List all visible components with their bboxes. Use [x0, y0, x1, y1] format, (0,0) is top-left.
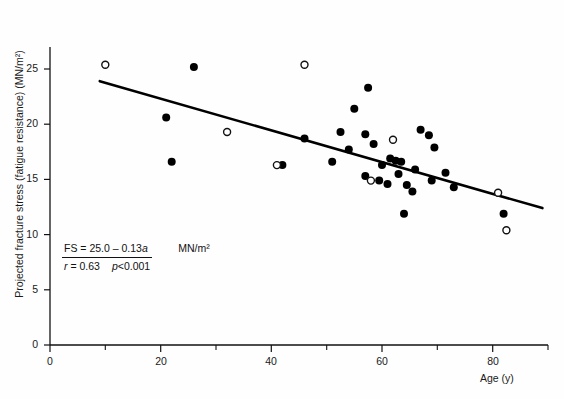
- data-point-open: [367, 177, 374, 184]
- data-point: [350, 105, 358, 113]
- plot-canvas: [0, 0, 564, 399]
- data-point: [301, 135, 309, 143]
- regression-stats-row: r = 0.63 p<0.001: [62, 258, 152, 274]
- correlation-symbol: r: [64, 259, 68, 273]
- data-point-open: [495, 189, 502, 196]
- p-value: <0.001: [118, 259, 150, 273]
- data-point: [378, 161, 386, 169]
- y-axis-title: Projected fracture stress (fatigue resis…: [13, 49, 25, 299]
- regression-line: [100, 81, 543, 208]
- data-point-open: [273, 162, 280, 169]
- data-point: [408, 188, 416, 196]
- data-point: [425, 131, 433, 139]
- open-data-points: [102, 61, 510, 234]
- regression-equation-variable: a: [142, 241, 148, 255]
- regression-equation-text: FS = 25.0 – 0.13: [64, 241, 142, 255]
- regression-annotation: FS = 25.0 – 0.13a r = 0.63 p<0.001 MN/m²: [62, 241, 210, 273]
- data-point: [430, 143, 438, 151]
- x-tick-label-60: 60: [367, 355, 397, 367]
- x-tick-label-80: 80: [478, 355, 508, 367]
- x-axis-minor-ticks: [105, 345, 548, 350]
- x-tick-label-0: 0: [35, 355, 65, 367]
- data-point-open: [390, 136, 397, 143]
- data-point: [397, 158, 405, 166]
- data-point: [190, 63, 198, 71]
- data-point: [403, 181, 411, 189]
- data-point: [345, 146, 353, 154]
- x-axis-major-ticks: [50, 345, 493, 352]
- regression-fraction: FS = 25.0 – 0.13a r = 0.63 p<0.001: [62, 241, 152, 273]
- data-point-open: [301, 61, 308, 68]
- x-axis-title: Age (y): [480, 372, 514, 384]
- data-point: [328, 158, 336, 166]
- scatter-plot-figure: 25 20 15 10 5 0 0 20 40 60 80 Projected …: [0, 0, 564, 399]
- data-point: [168, 158, 176, 166]
- data-point: [375, 177, 383, 185]
- correlation-value: = 0.63: [70, 259, 100, 273]
- data-point: [361, 130, 369, 138]
- data-point: [364, 84, 372, 92]
- filled-data-points: [162, 63, 507, 218]
- data-point-open: [224, 129, 231, 136]
- x-tick-label-20: 20: [146, 355, 176, 367]
- data-point: [442, 169, 450, 177]
- regression-units: MN/m²: [178, 241, 210, 255]
- data-point-open: [503, 227, 510, 234]
- data-point: [500, 210, 508, 218]
- data-point: [395, 170, 403, 178]
- data-point: [162, 114, 170, 122]
- x-tick-label-40: 40: [256, 355, 286, 367]
- data-point: [370, 140, 378, 148]
- regression-equation-row: FS = 25.0 – 0.13a: [62, 241, 152, 258]
- y-axis-ticks: [44, 69, 50, 345]
- data-point: [428, 177, 436, 185]
- data-point: [417, 126, 425, 134]
- data-point: [400, 210, 408, 218]
- data-point: [337, 128, 345, 136]
- data-point-open: [102, 61, 109, 68]
- data-point: [450, 183, 458, 191]
- y-tick-label-0: 0: [12, 338, 38, 350]
- data-point: [411, 166, 419, 174]
- data-point: [384, 180, 392, 188]
